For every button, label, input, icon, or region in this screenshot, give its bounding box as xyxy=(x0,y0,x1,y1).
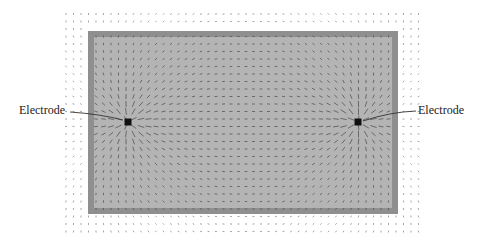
left-electrode-label: Electrode xyxy=(19,104,65,116)
electrode-right xyxy=(355,119,362,126)
electrode-left xyxy=(125,119,132,126)
right-electrode-label: Electrode xyxy=(418,104,464,116)
field-diagram xyxy=(0,0,485,241)
domain-fill xyxy=(94,37,392,208)
